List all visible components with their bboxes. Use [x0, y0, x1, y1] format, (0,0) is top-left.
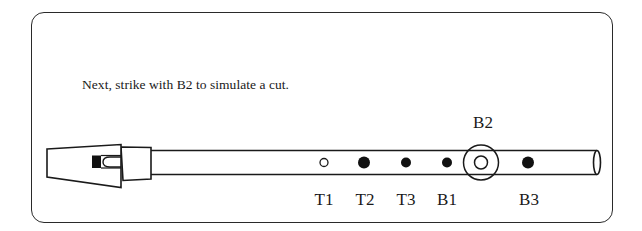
hole-label-b1: B1	[437, 191, 457, 208]
hole-label-t2: T2	[356, 191, 375, 208]
tube-end-icon	[594, 151, 601, 175]
hole-t1-open-icon	[320, 159, 328, 167]
hole-label-t3: T3	[397, 191, 416, 208]
hole-t3-covered-icon	[401, 158, 411, 168]
hole-b2-open-icon	[475, 156, 488, 169]
hole-label-t1: T1	[315, 191, 334, 208]
hole-label-b3: B3	[519, 191, 539, 208]
hole-label-b2: B2	[473, 114, 493, 131]
whistle-mouthpiece	[47, 145, 151, 188]
hole-b1-covered-icon	[442, 158, 452, 168]
hole-t2-covered-icon	[358, 157, 370, 169]
hole-b3-covered-icon	[522, 157, 534, 169]
mouthpiece-window-icon	[92, 156, 101, 169]
